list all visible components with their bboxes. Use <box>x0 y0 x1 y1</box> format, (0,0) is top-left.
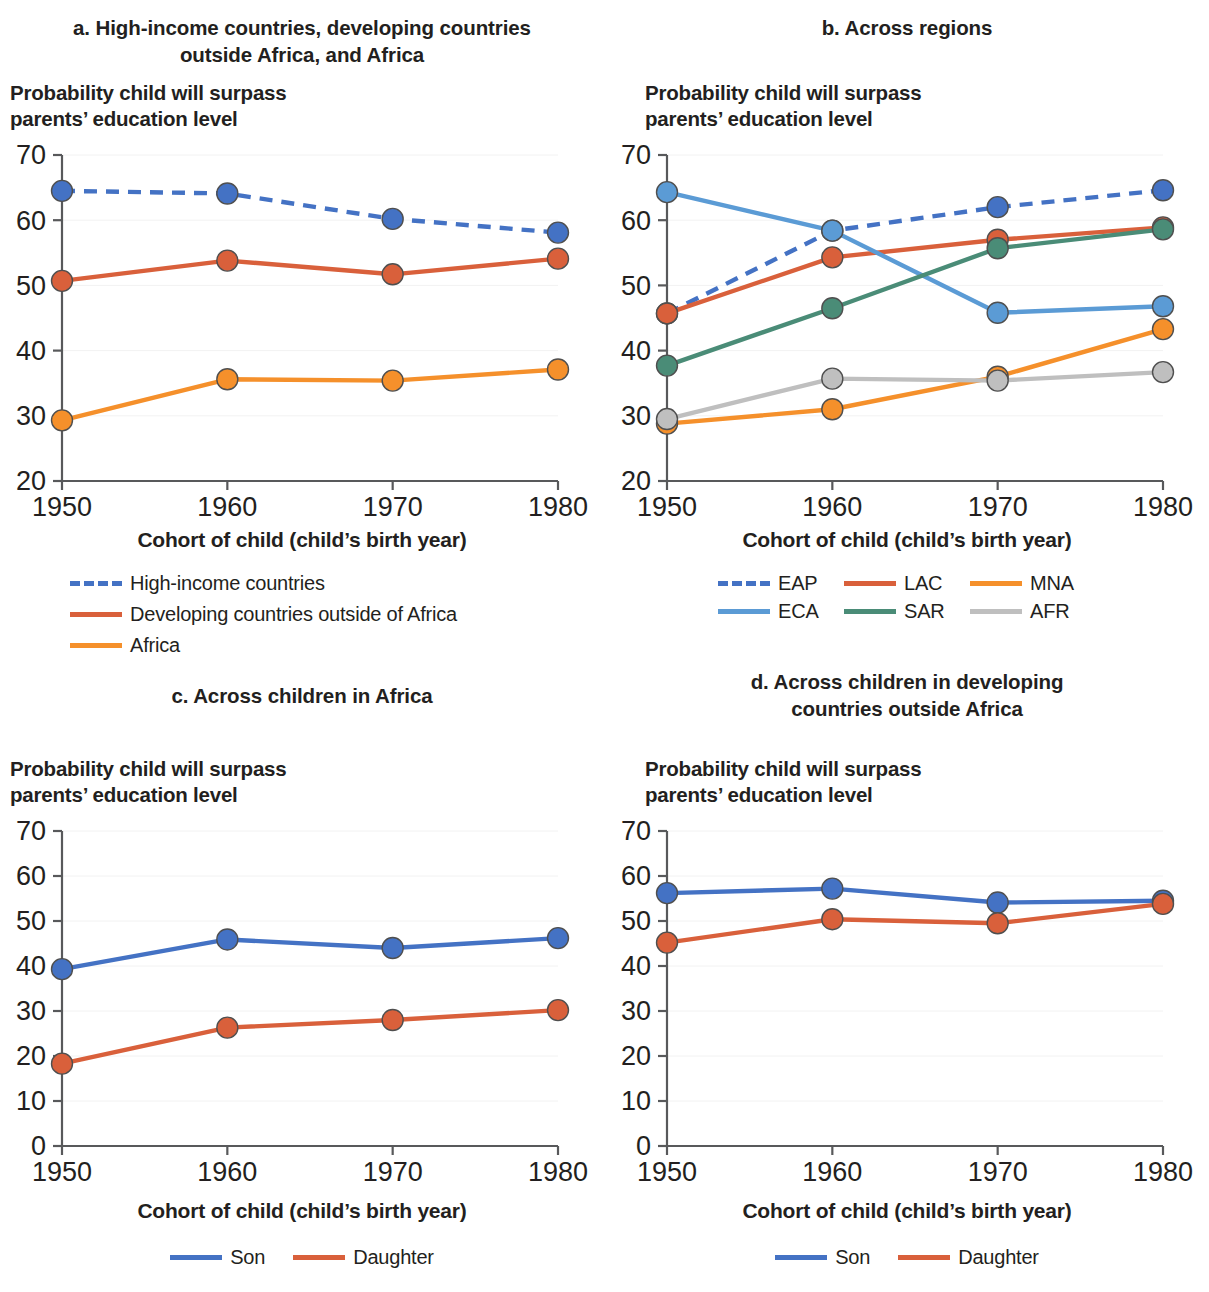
panel-d-y-axis-caption: Probability child will surpass parents’ … <box>645 756 922 808</box>
legend-item-son[interactable]: Son <box>170 1246 265 1268</box>
svg-text:10: 10 <box>621 1086 651 1116</box>
legend-swatch-eap <box>718 581 770 586</box>
legend-item-lac[interactable]: LAC <box>844 572 970 594</box>
svg-text:0: 0 <box>31 1131 46 1161</box>
legend-row: EAPLACMNA <box>605 572 1209 594</box>
svg-text:20: 20 <box>16 1041 46 1071</box>
legend-swatch-sar <box>844 609 896 614</box>
legend-swatch-high-income-countries <box>70 581 122 586</box>
legend-item-eca[interactable]: ECA <box>718 600 844 622</box>
svg-text:20: 20 <box>621 466 651 496</box>
legend-label-high-income-countries: High-income countries <box>130 572 325 594</box>
panel-a-title-line2: outside Africa, and Africa <box>180 43 424 66</box>
legend-swatch-daughter <box>898 1255 950 1260</box>
panel-d-legend: SonDaughter <box>605 1246 1209 1268</box>
svg-text:10: 10 <box>16 1086 46 1116</box>
svg-text:1950: 1950 <box>32 1157 92 1187</box>
svg-text:1980: 1980 <box>528 492 588 522</box>
svg-text:30: 30 <box>16 996 46 1026</box>
panel-d: d. Across children in developing countri… <box>605 646 1209 1292</box>
panel-d-title: d. Across children in developing countri… <box>605 668 1209 722</box>
legend-item-eap[interactable]: EAP <box>718 572 844 594</box>
y-caption-line2: parents’ education level <box>10 107 238 130</box>
y-caption-line2: parents’ education level <box>645 783 873 806</box>
svg-text:20: 20 <box>16 466 46 496</box>
svg-text:1950: 1950 <box>637 1157 697 1187</box>
panel-d-plot: 0102030405060701950196019701980 <box>605 646 1209 1292</box>
panel-b-title-line1: b. Across regions <box>822 16 993 39</box>
legend-swatch-developing-countries-outside-of-africa <box>70 612 122 617</box>
panel-b-legend: EAPLACMNAECASARAFR <box>605 572 1209 628</box>
svg-text:1960: 1960 <box>802 492 862 522</box>
legend-label-mna: MNA <box>1030 572 1074 594</box>
y-caption-line2: parents’ education level <box>10 783 238 806</box>
y-caption-line1: Probability child will surpass <box>645 81 922 104</box>
legend-label-eap: EAP <box>778 572 817 594</box>
svg-text:1980: 1980 <box>1133 1157 1193 1187</box>
svg-text:1970: 1970 <box>968 1157 1028 1187</box>
legend-row: High-income countries <box>70 572 604 594</box>
y-caption-line1: Probability child will surpass <box>10 757 287 780</box>
legend-label-sar: SAR <box>904 600 945 622</box>
legend-label-developing-countries-outside-of-africa: Developing countries outside of Africa <box>130 603 457 625</box>
panel-a-title: a. High-income countries, developing cou… <box>0 14 604 68</box>
legend-label-daughter: Daughter <box>958 1246 1039 1268</box>
panel-a-title-line1: a. High-income countries, developing cou… <box>73 16 531 39</box>
legend-item-sar[interactable]: SAR <box>844 600 970 622</box>
svg-text:40: 40 <box>621 336 651 366</box>
svg-text:30: 30 <box>621 401 651 431</box>
legend-swatch-lac <box>844 581 896 586</box>
legend-row: SonDaughter <box>0 1246 604 1268</box>
legend-item-high-income-countries[interactable]: High-income countries <box>70 572 325 594</box>
panel-b: b. Across regions Probability child will… <box>605 0 1209 646</box>
svg-text:1980: 1980 <box>1133 492 1193 522</box>
legend-swatch-eca <box>718 609 770 614</box>
panel-c-title-line1: c. Across children in Africa <box>171 684 432 707</box>
legend-item-developing-countries-outside-of-africa[interactable]: Developing countries outside of Africa <box>70 603 457 625</box>
panel-d-title-line1: d. Across children in developing <box>751 670 1064 693</box>
legend-swatch-son <box>170 1255 222 1260</box>
panel-b-x-axis-label: Cohort of child (child’s birth year) <box>605 528 1209 552</box>
y-caption-line1: Probability child will surpass <box>10 81 287 104</box>
panel-c-title: c. Across children in Africa <box>0 682 604 709</box>
svg-text:40: 40 <box>621 951 651 981</box>
legend-label-daughter: Daughter <box>353 1246 434 1268</box>
svg-text:1950: 1950 <box>637 492 697 522</box>
panel-d-title-line2: countries outside Africa <box>791 697 1023 720</box>
svg-text:1970: 1970 <box>968 492 1028 522</box>
legend-row: Developing countries outside of Africa <box>70 603 604 625</box>
panel-c-x-axis-label: Cohort of child (child’s birth year) <box>0 1199 604 1223</box>
svg-text:30: 30 <box>16 401 46 431</box>
legend-item-afr[interactable]: AFR <box>970 600 1096 622</box>
panel-b-y-axis-caption: Probability child will surpass parents’ … <box>645 80 922 132</box>
legend-row: ECASARAFR <box>605 600 1209 622</box>
legend-swatch-son <box>775 1255 827 1260</box>
panel-b-title: b. Across regions <box>605 14 1209 41</box>
legend-item-daughter[interactable]: Daughter <box>293 1246 434 1268</box>
svg-text:70: 70 <box>16 816 46 846</box>
legend-label-eca: ECA <box>778 600 819 622</box>
y-caption-line1: Probability child will surpass <box>645 757 922 780</box>
panel-a-y-axis-caption: Probability child will surpass parents’ … <box>10 80 287 132</box>
svg-text:60: 60 <box>16 206 46 236</box>
figure-multi-panel-line-charts: a. High-income countries, developing cou… <box>0 0 1209 1292</box>
svg-text:70: 70 <box>621 816 651 846</box>
legend-label-lac: LAC <box>904 572 942 594</box>
svg-text:60: 60 <box>16 861 46 891</box>
svg-text:30: 30 <box>621 996 651 1026</box>
svg-text:50: 50 <box>621 906 651 936</box>
legend-row: SonDaughter <box>605 1246 1209 1268</box>
svg-text:70: 70 <box>16 140 46 170</box>
legend-item-son[interactable]: Son <box>775 1246 870 1268</box>
panel-c-legend: SonDaughter <box>0 1246 604 1268</box>
legend-item-mna[interactable]: MNA <box>970 572 1096 594</box>
svg-text:50: 50 <box>621 271 651 301</box>
svg-text:60: 60 <box>621 206 651 236</box>
legend-label-afr: AFR <box>1030 600 1069 622</box>
svg-text:1970: 1970 <box>363 492 423 522</box>
svg-text:1980: 1980 <box>528 1157 588 1187</box>
legend-swatch-mna <box>970 581 1022 586</box>
svg-text:70: 70 <box>621 140 651 170</box>
legend-item-daughter[interactable]: Daughter <box>898 1246 1039 1268</box>
panel-d-x-axis-label: Cohort of child (child’s birth year) <box>605 1199 1209 1223</box>
